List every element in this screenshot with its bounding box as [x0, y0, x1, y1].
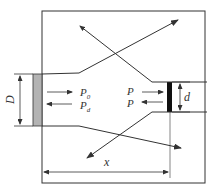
- d-label: d: [184, 90, 191, 104]
- P-forward-label: P: [126, 85, 134, 97]
- outer-box: [42, 11, 205, 183]
- nozzle-diagram: D d P0 Pd P P x: [0, 0, 211, 195]
- channel-bottom-wall: [42, 126, 181, 148]
- x-label: x: [103, 155, 110, 169]
- channel-bottom-right: [87, 112, 207, 158]
- right-port: [167, 82, 172, 112]
- left-port: [33, 74, 42, 126]
- channel-top-right: [80, 26, 207, 82]
- channel-top-wall: [42, 20, 178, 74]
- Pd-label: Pd: [79, 99, 91, 114]
- P-backward-label: P: [126, 97, 134, 109]
- D-label: D: [3, 95, 17, 105]
